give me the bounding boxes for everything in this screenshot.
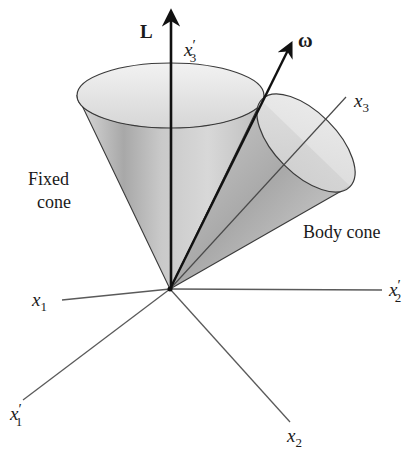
omega-vector-label: ω	[298, 29, 313, 51]
body-cone-label: Body cone	[303, 222, 380, 242]
x2-axis-line	[170, 289, 290, 422]
x2-prime-axis-line	[170, 289, 382, 290]
x3-prime-label: x′3	[183, 37, 196, 65]
origin-point	[168, 287, 173, 292]
x1-prime-label: x′1	[9, 401, 22, 429]
x2-label: x2	[286, 425, 302, 450]
rigid-body-cones-diagram: L ω x′3 x3 Fixed cone Body cone x1 x′2 x…	[0, 0, 418, 467]
fixed-cone-label: Fixed cone	[28, 169, 74, 212]
x3-label: x3	[353, 90, 369, 115]
x1-axis-line	[62, 289, 170, 300]
axes	[23, 289, 382, 422]
x2-prime-label: x′2	[388, 277, 401, 305]
L-vector-label: L	[140, 21, 153, 42]
x1-label: x1	[31, 289, 47, 314]
